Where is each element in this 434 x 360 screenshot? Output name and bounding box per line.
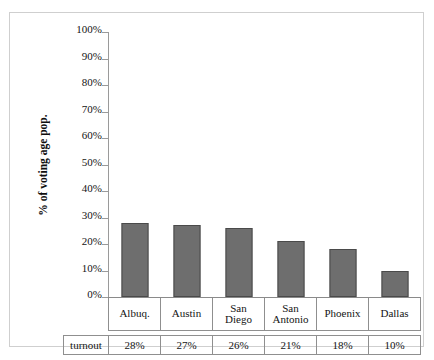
y-axis-tick-mark	[102, 32, 108, 33]
category-label-cell: Dallas	[369, 298, 420, 330]
data-value-cell: 18%	[317, 336, 369, 354]
category-label-cell: Phoenix	[317, 298, 369, 330]
y-axis-tick-mark	[102, 59, 108, 60]
y-axis-tick-mark	[102, 218, 108, 219]
category-label-cell: SanAntonio	[265, 298, 317, 330]
data-value-cell: 10%	[369, 336, 420, 354]
y-axis-tick-label: 80%	[82, 77, 102, 88]
data-value-table: turnout 28%27%26%21%18%10%	[63, 335, 421, 355]
category-label-text: Albuq.	[119, 308, 149, 320]
category-label-text: Phoenix	[324, 308, 360, 320]
y-axis-tick-label: 60%	[82, 130, 102, 141]
y-axis-tick-label: 90%	[82, 51, 102, 62]
data-value-cell: 28%	[109, 336, 161, 354]
y-axis-tick-mark	[102, 112, 108, 113]
category-label-cell: Albuq.	[109, 298, 161, 330]
scan-top-artifact	[0, 0, 434, 7]
bar[interactable]	[382, 271, 409, 298]
y-axis-tick-label: 70%	[82, 104, 102, 115]
bar-slot	[213, 32, 265, 297]
bar-slot	[161, 32, 213, 297]
data-row-header: turnout	[64, 336, 109, 354]
category-label-text: SanAntonio	[272, 303, 308, 326]
y-axis-title: % of voting age pop.	[37, 95, 49, 235]
data-value-cell: 21%	[265, 336, 317, 354]
category-label-text: Dallas	[380, 308, 408, 320]
y-axis-tick-mark	[102, 191, 108, 192]
data-value-cell: 27%	[161, 336, 213, 354]
bar-slot	[369, 32, 421, 297]
category-label-table: Albuq.AustinSanDiegoSanAntonioPhoenixDal…	[108, 298, 421, 331]
chart-figure-frame: 100%90%80%70%60%50%40%30%20%10%0% % of v…	[9, 12, 424, 347]
bar-slot	[109, 32, 161, 297]
data-value-cell: 26%	[213, 336, 265, 354]
y-axis-tick-label: 50%	[82, 157, 102, 168]
y-axis-tick-mark	[102, 85, 108, 86]
y-axis-tick-label: 10%	[82, 263, 102, 274]
y-axis-tick-mark	[102, 244, 108, 245]
bar-series	[109, 32, 421, 297]
y-axis-tick-label: 100%	[76, 24, 102, 35]
y-axis-tick-mark	[102, 271, 108, 272]
y-axis-tick-label: 40%	[82, 183, 102, 194]
y-axis-tick-mark	[102, 138, 108, 139]
category-label-text: SanDiego	[225, 303, 252, 326]
bar[interactable]	[278, 241, 305, 297]
bar-slot	[265, 32, 317, 297]
category-label-text: Austin	[172, 308, 201, 320]
bar[interactable]	[330, 249, 357, 297]
y-axis-tick-label: 30%	[82, 210, 102, 221]
y-axis-tick-mark	[102, 165, 108, 166]
bar[interactable]	[174, 225, 201, 297]
bar-slot	[317, 32, 369, 297]
y-axis-tick-label: 0%	[87, 289, 102, 300]
y-axis-tick-label: 20%	[82, 236, 102, 247]
bar[interactable]	[122, 223, 149, 297]
category-label-cell: SanDiego	[213, 298, 265, 330]
category-label-cell: Austin	[161, 298, 213, 330]
bar[interactable]	[226, 228, 253, 297]
